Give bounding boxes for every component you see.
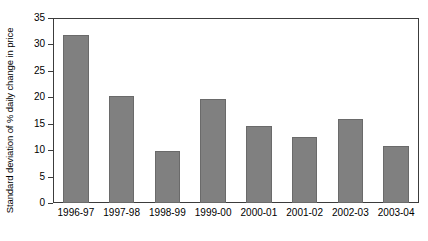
bar <box>246 126 272 203</box>
bar-chart: Standard deviation of % daily change in … <box>0 0 428 241</box>
y-axis-tick-label: 20 <box>34 90 45 103</box>
bar <box>292 137 318 203</box>
bars-group <box>53 18 419 203</box>
y-axis-tick-label: 10 <box>34 143 45 156</box>
x-axis-tick-label: 1996-97 <box>53 206 99 220</box>
x-axis-tick-label: 1998-99 <box>145 206 191 220</box>
y-axis-tick-label: 15 <box>34 117 45 130</box>
y-axis-tick-mark <box>48 203 53 204</box>
x-axis-tick-label: 2001-02 <box>282 206 328 220</box>
x-axis-tick-label: 2000-01 <box>236 206 282 220</box>
bar <box>383 146 409 203</box>
y-axis-tick-label: 0 <box>39 196 45 209</box>
y-axis-title: Standard deviation of % daily change in … <box>0 0 18 241</box>
x-axis-tick-label: 1999-00 <box>190 206 236 220</box>
x-axis: 1996-971997-981998-991999-002000-012001-… <box>53 206 419 226</box>
x-axis-tick-label: 2002-03 <box>328 206 374 220</box>
y-axis-tick-label: 5 <box>39 170 45 183</box>
y-axis-tick-label: 25 <box>34 64 45 77</box>
bar <box>200 99 226 203</box>
bar <box>63 35 89 203</box>
x-axis-tick-label: 2003-04 <box>373 206 419 220</box>
x-axis-tick-label: 1997-98 <box>99 206 145 220</box>
y-axis-tick-label: 30 <box>34 37 45 50</box>
bar <box>338 119 364 203</box>
bar <box>155 151 181 203</box>
bar <box>109 96 135 203</box>
y-axis-tick-label: 35 <box>34 11 45 24</box>
